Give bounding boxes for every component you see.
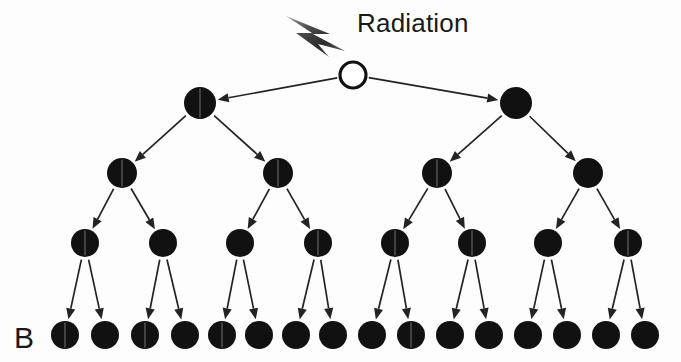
division-arrow-line: [369, 78, 488, 98]
division-arrows-group: [66, 78, 644, 320]
daughter-cell-filled: [245, 321, 273, 349]
daughter-cell-filled: [358, 321, 386, 349]
daughter-cell-filled: [631, 321, 659, 349]
cell-division-tree-diagram: Radiation B: [0, 0, 681, 362]
division-arrow: [167, 260, 183, 320]
division-arrow: [223, 260, 237, 320]
division-arrow-line: [229, 78, 338, 98]
figure-panel-b: Radiation B: [0, 0, 681, 362]
cell-node-n21: [282, 321, 310, 349]
cell-node-n26: [475, 321, 503, 349]
division-arrow-line: [167, 260, 179, 309]
daughter-cell-filled: [91, 321, 119, 349]
division-arrow-line: [456, 260, 468, 309]
division-arrow-line: [243, 260, 253, 309]
division-arrow-line: [98, 189, 114, 219]
daughter-cell-filled: [514, 321, 542, 349]
cell-node-n0: [340, 62, 366, 88]
division-arrow-head: [608, 308, 617, 320]
cell-node-n28: [553, 321, 581, 349]
division-arrow-head: [66, 308, 75, 320]
division-arrow-head: [374, 308, 383, 320]
division-arrow-line: [214, 116, 257, 155]
daughter-cell-filled: [436, 321, 464, 349]
cell-node-n7: [71, 229, 99, 257]
division-arrow: [450, 116, 502, 162]
division-arrow-line: [561, 189, 579, 220]
cell-node-n29: [592, 321, 620, 349]
cell-node-n9: [226, 229, 254, 257]
division-arrow-line: [379, 259, 391, 308]
panel-label-b: B: [14, 321, 35, 354]
cell-node-n15: [51, 321, 79, 349]
division-arrow-head: [402, 308, 411, 320]
division-arrow-head: [145, 217, 155, 229]
division-arrow-head: [556, 217, 565, 229]
division-arrow-head: [218, 93, 230, 102]
cell-node-n8: [149, 229, 177, 257]
cell-nodes-group: [51, 62, 659, 349]
division-arrow: [135, 116, 186, 162]
division-arrow: [403, 188, 428, 229]
division-arrow: [551, 260, 566, 320]
cell-node-n17: [131, 321, 159, 349]
division-arrow: [131, 189, 155, 230]
daughter-cell-filled: [553, 321, 581, 349]
cell-node-n16: [91, 321, 119, 349]
lightning-bolt-icon: [286, 16, 345, 57]
daughter-cell-filled: [573, 158, 603, 188]
division-arrow: [218, 78, 338, 102]
cell-node-n14: [614, 229, 642, 257]
division-arrow: [530, 116, 576, 161]
division-arrow-head: [487, 94, 499, 103]
cell-node-n4: [263, 158, 293, 188]
division-arrow-line: [287, 189, 305, 220]
division-arrow: [398, 260, 411, 319]
division-arrow: [608, 260, 624, 320]
division-arrow: [89, 260, 104, 320]
division-arrow-line: [227, 260, 237, 309]
division-arrow-line: [321, 260, 329, 309]
division-arrow-head: [249, 308, 258, 320]
division-arrow-head: [480, 308, 489, 320]
cell-node-n20: [245, 321, 273, 349]
division-arrow: [321, 260, 333, 319]
division-arrow-head: [452, 308, 461, 320]
division-arrow-line: [597, 189, 615, 220]
division-arrow-head: [611, 217, 620, 229]
division-arrow-head: [557, 308, 566, 320]
division-arrow: [374, 259, 391, 319]
cell-node-n24: [397, 321, 425, 349]
daughter-cell-filled: [592, 321, 620, 349]
division-arrow-line: [131, 189, 149, 220]
division-arrow-line: [631, 260, 640, 309]
division-arrow: [146, 260, 160, 320]
division-arrow-line: [253, 189, 270, 219]
division-arrow: [287, 189, 310, 229]
division-arrow: [298, 260, 314, 320]
cell-node-n18: [171, 321, 199, 349]
division-arrow: [597, 189, 620, 229]
division-arrow-head: [95, 308, 104, 320]
division-arrow: [452, 260, 468, 320]
division-arrow: [92, 189, 113, 229]
division-arrow-line: [530, 116, 568, 153]
cell-node-n19: [208, 321, 236, 349]
division-arrow: [369, 78, 498, 103]
division-arrow-head: [146, 308, 155, 320]
cell-node-n25: [436, 321, 464, 349]
cell-node-n27: [514, 321, 542, 349]
division-arrow-head: [223, 308, 232, 320]
daughter-cell-filled: [534, 229, 562, 257]
division-arrow-line: [551, 260, 561, 309]
division-arrow-line: [71, 260, 82, 309]
division-arrow: [475, 260, 489, 320]
daughter-cell-filled: [149, 229, 177, 257]
cell-node-n30: [631, 321, 659, 349]
cell-node-n13: [534, 229, 562, 257]
cell-node-n23: [358, 321, 386, 349]
division-arrow-head: [636, 308, 645, 320]
irradiated-cell-outline: [340, 62, 366, 88]
division-arrow-line: [302, 260, 314, 309]
division-arrow-head: [298, 308, 307, 320]
